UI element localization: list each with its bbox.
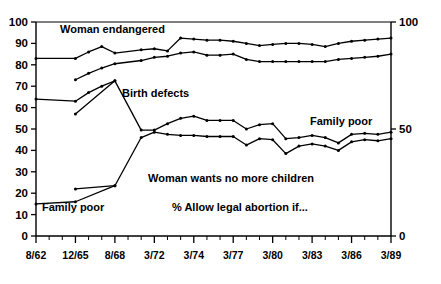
series-point-family-poor-early-low <box>35 98 38 101</box>
series-point-birth-defects <box>245 58 248 61</box>
series-point-woman-wants-no-more-children <box>232 135 235 138</box>
series-point-woman-wants-no-more-children <box>205 135 208 138</box>
birth-defects-label: Birth defects <box>122 87 189 99</box>
x-tick-label-3-86: 3/86 <box>341 249 362 261</box>
series-point-woman-endangered <box>113 52 116 55</box>
y-tick-label-left-30: 30 <box>15 166 28 178</box>
family-poor-right-label: Family poor <box>310 115 373 127</box>
series-point-birth-defects <box>337 58 340 61</box>
series-point-birth-defects <box>87 72 90 75</box>
x-tick-label-3-72: 3/72 <box>144 249 165 261</box>
x-tick-label-8-68: 8/68 <box>105 249 126 261</box>
series-point-birth-defects <box>166 55 169 58</box>
series-point-birth-defects <box>205 54 208 57</box>
x-tick-label-3-89: 3/89 <box>381 249 402 261</box>
series-point-family-poor-early-low <box>87 91 90 94</box>
x-tick-label-3-83: 3/83 <box>302 249 323 261</box>
series-point-woman-wants-no-more-children-early-low <box>113 184 116 187</box>
series-point-birth-defects <box>390 53 393 56</box>
y-tick-label-left-100: 100 <box>9 16 28 28</box>
series-point-woman-wants-no-more-children <box>192 134 195 137</box>
series-point-birth-defects <box>219 54 222 57</box>
series-point-woman-endangered <box>87 50 90 53</box>
y-tick-label-left-60: 60 <box>15 102 28 114</box>
series-point-birth-defects <box>284 60 287 63</box>
series-point-birth-defects <box>140 59 143 62</box>
series-point-woman-wants-no-more-children <box>390 137 393 140</box>
series-point-family-poor <box>166 122 169 125</box>
series-point-family-poor <box>205 119 208 122</box>
series-point-woman-endangered <box>337 42 340 45</box>
series-point-woman-endangered <box>363 39 366 42</box>
series-point-family-poor <box>376 133 379 136</box>
series-point-family-poor <box>297 136 300 139</box>
series-point-woman-wants-no-more-children <box>258 137 261 140</box>
y-tick-label-left-10: 10 <box>15 209 28 221</box>
woman-wants-no-more-label: Woman wants no more children <box>148 172 314 184</box>
y-tick-label-right-0: 0 <box>399 230 405 242</box>
y-tick-label-right-100: 100 <box>399 16 418 28</box>
series-point-woman-wants-no-more-children <box>376 139 379 142</box>
series-point-woman-wants-no-more-children <box>219 135 222 138</box>
series-point-woman-endangered <box>35 57 38 60</box>
series-point-family-poor <box>232 119 235 122</box>
series-point-birth-defects <box>324 60 327 63</box>
series-point-woman-endangered <box>179 37 182 40</box>
percent-allow-label: % Allow legal abortion if... <box>172 201 308 213</box>
series-point-woman-wants-no-more-children <box>271 138 274 141</box>
series-point-woman-endangered <box>192 38 195 41</box>
series-point-woman-wants-no-more-children <box>363 138 366 141</box>
series-point-birth-defects <box>350 57 353 60</box>
y-tick-label-left-0: 0 <box>22 230 28 242</box>
series-point-family-poor <box>311 134 314 137</box>
series-point-birth-defects <box>153 56 156 59</box>
series-line-birth-defects <box>75 52 391 80</box>
abortion-attitudes-line-chart: 01020304050607080901000501008/6212/658/6… <box>0 0 441 284</box>
series-point-birth-defects <box>192 50 195 53</box>
series-point-family-poor <box>179 117 182 120</box>
x-tick-label-12-65: 12/65 <box>62 249 88 261</box>
series-point-woman-endangered <box>324 45 327 48</box>
series-point-woman-endangered <box>376 38 379 41</box>
series-point-birth-defects <box>179 52 182 55</box>
series-point-birth-defects <box>311 60 314 63</box>
series-point-family-poor <box>219 119 222 122</box>
y-tick-label-right-50: 50 <box>399 123 412 135</box>
series-point-family-poor-early-low <box>100 85 103 88</box>
series-point-woman-wants-no-more-children <box>350 140 353 143</box>
series-point-woman-endangered <box>390 37 393 40</box>
series-point-family-poor <box>390 131 393 134</box>
series-point-woman-endangered <box>297 42 300 45</box>
chart-container: 01020304050607080901000501008/6212/658/6… <box>0 0 441 284</box>
series-point-woman-wants-no-more-children-early-low <box>35 202 38 205</box>
series-point-family-poor <box>192 115 195 118</box>
family-poor-left-label: Family poor <box>42 201 105 213</box>
series-point-woman-wants-no-more-children <box>311 142 314 145</box>
series-point-woman-endangered <box>205 39 208 42</box>
y-tick-label-left-20: 20 <box>15 187 28 199</box>
series-point-birth-defects <box>100 67 103 70</box>
series-point-birth-defects <box>258 60 261 63</box>
y-tick-label-left-90: 90 <box>15 37 28 49</box>
series-point-family-poor-early-low <box>74 100 77 103</box>
series-point-birth-defects <box>74 78 77 81</box>
series-point-birth-defects <box>297 60 300 63</box>
series-point-woman-endangered <box>74 57 77 60</box>
series-point-birth-defects <box>113 62 116 65</box>
x-tick-label-8-62: 8/62 <box>26 249 47 261</box>
woman-endangered-label: Woman endangered <box>60 23 165 35</box>
series-point-family-poor <box>258 123 261 126</box>
series-point-birth-defects <box>376 55 379 58</box>
series-point-family-poor <box>271 122 274 125</box>
series-point-family-poor <box>337 141 340 144</box>
series-point-family-poor <box>245 128 248 131</box>
series-point-woman-wants-no-more-children <box>74 187 77 190</box>
x-tick-label-3-80: 3/80 <box>262 249 283 261</box>
series-point-family-poor <box>140 129 143 132</box>
series-point-woman-wants-no-more-children <box>324 145 327 148</box>
y-tick-label-left-50: 50 <box>15 123 28 135</box>
series-point-woman-wants-no-more-children <box>166 133 169 136</box>
series-point-woman-wants-no-more-children <box>153 131 156 134</box>
series-point-birth-defects <box>271 60 274 63</box>
series-point-woman-endangered <box>245 42 248 45</box>
